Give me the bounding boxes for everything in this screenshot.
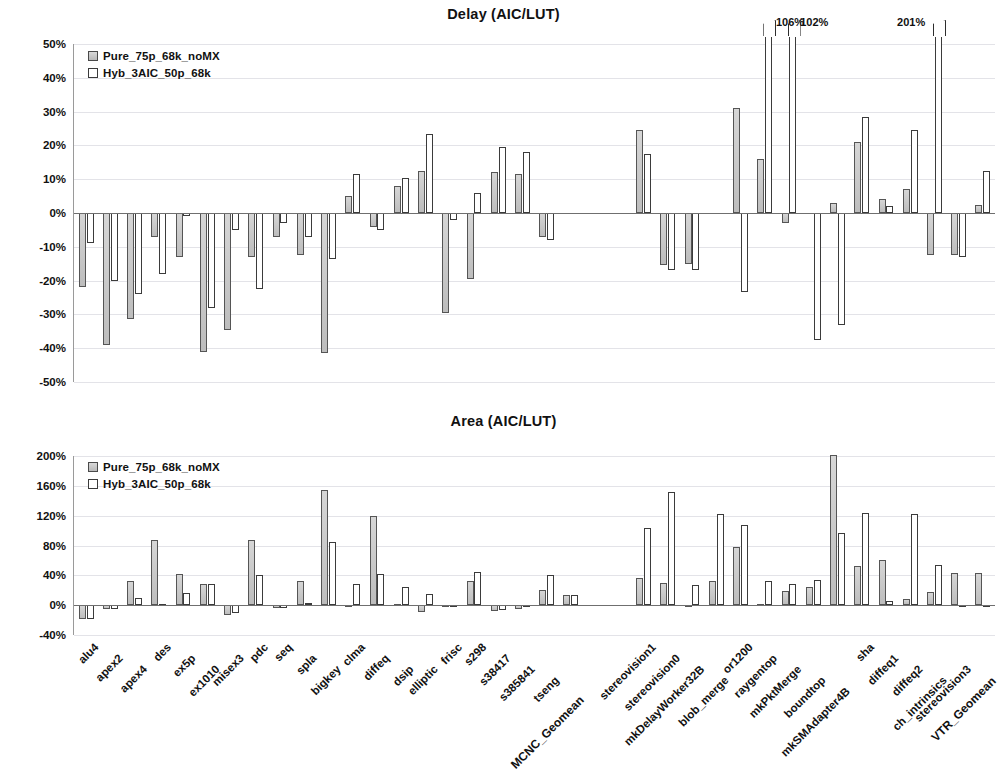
bar-pure	[757, 159, 764, 213]
bar-hyb	[789, 584, 796, 606]
bar-pure	[951, 213, 958, 255]
bar-pure	[224, 213, 231, 330]
bar-hyb	[329, 213, 336, 259]
overflow-arrow-icon	[763, 20, 776, 36]
x-axis-label: mkSMAdapter4B	[778, 685, 852, 759]
bar-hyb	[256, 213, 263, 289]
bar-pure	[79, 605, 86, 618]
bar-pure	[79, 213, 86, 287]
bar-pure	[782, 591, 789, 605]
bar-hyb	[232, 213, 239, 230]
overflow-value-label: 201%	[897, 16, 925, 28]
bar-pure	[951, 573, 958, 605]
y-axis-tick: 40%	[43, 72, 66, 84]
bar-hyb	[644, 528, 651, 605]
bar-pure	[370, 516, 377, 605]
bar-hyb	[305, 213, 312, 237]
x-axis-label: clma	[340, 641, 367, 668]
zero-axis-line	[74, 213, 995, 214]
bar-hyb	[426, 594, 433, 605]
bar-hyb	[692, 213, 699, 270]
bar-hyb	[111, 213, 118, 281]
y-axis-tick: 200%	[37, 450, 66, 462]
bar-hyb	[789, 37, 796, 213]
bar-pure	[321, 490, 328, 606]
bar-hyb	[426, 134, 433, 213]
y-axis-tick: 120%	[37, 510, 66, 522]
zero-axis-line	[74, 605, 995, 606]
gridline	[74, 635, 995, 636]
bar-pure	[879, 199, 886, 213]
bar-pure	[442, 213, 449, 313]
y-axis-tick: 20%	[43, 139, 66, 151]
bar-hyb	[911, 514, 918, 605]
bar-hyb	[208, 213, 215, 308]
x-axis-label: alu4	[76, 641, 101, 666]
bar-hyb	[450, 213, 457, 220]
bar-pure	[394, 186, 401, 213]
bar-hyb	[741, 525, 748, 605]
bar-pure	[515, 174, 522, 213]
bar-hyb	[692, 585, 699, 605]
x-axis-label: apex4	[118, 663, 150, 695]
bar-pure	[467, 213, 474, 279]
x-axis-label: spla	[294, 652, 319, 677]
bar-pure	[321, 213, 328, 353]
bar-pure	[127, 581, 134, 605]
bar-pure	[418, 605, 425, 612]
bar-hyb	[814, 213, 821, 340]
bar-pure	[297, 581, 304, 605]
y-axis-tick: 0%	[49, 207, 66, 219]
bar-hyb	[886, 206, 893, 213]
bar-hyb	[838, 533, 845, 605]
y-axis-tick: 10%	[43, 173, 66, 185]
bar-pure	[685, 213, 692, 264]
legend-label-pure: Pure_75p_68k_noMX	[103, 461, 220, 473]
bar-pure	[248, 213, 255, 257]
gridline	[74, 44, 995, 45]
bar-pure	[660, 583, 667, 605]
bar-hyb	[353, 174, 360, 213]
bar-hyb	[256, 575, 263, 606]
bar-pure	[879, 560, 886, 605]
bar-pure	[103, 213, 110, 345]
legend-swatch-hyb-icon	[88, 479, 98, 489]
bar-pure	[248, 540, 255, 606]
bar-pure	[467, 581, 474, 606]
bar-hyb	[862, 117, 869, 213]
bar-hyb	[87, 213, 94, 243]
bar-hyb	[959, 213, 966, 257]
legend-swatch-pure-icon	[88, 51, 98, 61]
y-axis-tick: 40%	[43, 569, 66, 581]
bar-hyb	[232, 605, 239, 612]
gridline	[74, 516, 995, 517]
y-axis-tick: -30%	[39, 308, 66, 320]
x-axis-label: tseng	[531, 674, 561, 704]
bar-pure	[660, 213, 667, 265]
y-axis-tick: -50%	[39, 376, 66, 388]
delay-chart-title: Delay (AIC/LUT)	[0, 6, 1007, 22]
legend-label-hyb: Hyb_3AIC_50p_68k	[103, 67, 211, 79]
bar-pure	[200, 584, 207, 605]
bar-pure	[563, 595, 570, 605]
overflow-value-label: 102%	[800, 16, 828, 28]
x-axis-label: seq	[272, 641, 295, 664]
area-chart-title: Area (AIC/LUT)	[0, 413, 1007, 429]
bar-hyb	[668, 492, 675, 605]
bar-pure	[927, 213, 934, 255]
bar-pure	[733, 547, 740, 605]
x-axis-label: sha	[854, 641, 877, 664]
bar-hyb	[935, 565, 942, 605]
legend-item-hyb: Hyb_3AIC_50p_68k	[88, 476, 220, 492]
bar-hyb	[547, 213, 554, 240]
bar-hyb	[353, 584, 360, 605]
area-chart-block: Area (AIC/LUT) Pure_75p_68k_noMX Hyb_3AI…	[0, 400, 1007, 765]
x-axis-labels: alu4apex2apex4desex5pex1010misex3pdcseqs…	[0, 637, 1007, 767]
bar-pure	[830, 203, 837, 213]
bar-pure	[224, 605, 231, 615]
bar-pure	[927, 592, 934, 605]
bar-pure	[370, 213, 377, 227]
x-axis-label: s298	[462, 641, 489, 668]
bar-hyb	[765, 581, 772, 606]
x-axis-label: pdc	[247, 641, 270, 664]
